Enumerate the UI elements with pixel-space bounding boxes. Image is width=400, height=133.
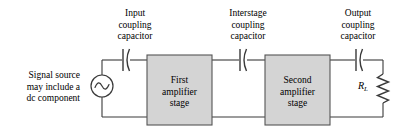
- signal-source-label-line3: dc component: [2, 93, 80, 105]
- interstage-cap-label-line2: coupling: [204, 20, 292, 32]
- second-stage-label-line3: stage: [265, 98, 330, 110]
- input-cap-label-line1: Input: [96, 8, 174, 20]
- input-cap-label-line2: coupling: [96, 20, 174, 32]
- signal-source-label-line2: may include a: [2, 82, 80, 94]
- second-stage-label-line2: amplifier: [265, 87, 330, 99]
- signal-source-label: Signal source may include a dc component: [2, 70, 80, 105]
- interstage-cap-label-line1: Interstage: [204, 8, 292, 20]
- load-resistor-symbol: [378, 74, 389, 103]
- input-coupling-capacitor-label: Input coupling capacitor: [96, 8, 174, 43]
- signal-source-label-line1: Signal source: [2, 70, 80, 82]
- input-coupling-capacitor-symbol: [123, 49, 130, 71]
- output-coupling-capacitor-symbol: [356, 49, 363, 71]
- first-stage-label-line2: amplifier: [147, 87, 212, 99]
- signal-source-symbol: [91, 75, 113, 97]
- output-cap-label-line1: Output: [318, 8, 398, 20]
- interstage-coupling-capacitor-symbol: [240, 49, 247, 71]
- interstage-coupling-capacitor-label: Interstage coupling capacitor: [204, 8, 292, 43]
- first-stage-label-line1: First: [147, 75, 212, 87]
- output-cap-label-line2: coupling: [318, 20, 398, 32]
- first-stage-label-line3: stage: [147, 98, 212, 110]
- second-stage-label-line1: Second: [265, 75, 330, 87]
- output-coupling-capacitor-label: Output coupling capacitor: [318, 8, 398, 43]
- circuit-diagram-figure: Input coupling capacitor Interstage coup…: [0, 0, 400, 133]
- input-cap-label-line3: capacitor: [96, 31, 174, 43]
- first-amplifier-stage-label: First amplifier stage: [147, 75, 212, 110]
- load-resistor-subscript-text: L: [364, 85, 368, 93]
- interstage-cap-label-line3: capacitor: [204, 31, 292, 43]
- load-resistor-label: RL: [358, 80, 368, 93]
- output-cap-label-line3: capacitor: [318, 31, 398, 43]
- second-amplifier-stage-label: Second amplifier stage: [265, 75, 330, 110]
